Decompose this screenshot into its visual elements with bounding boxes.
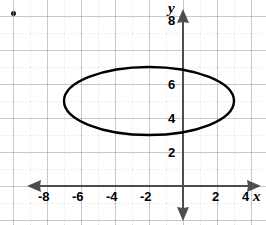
x-tick-label--6: -6: [72, 190, 84, 203]
y-tick-label-4: 4: [168, 112, 175, 125]
x-tick-label--8: -8: [38, 190, 50, 203]
graph-figure: -8 -6 -4 -2 2 4 2 4 6 8 y x: [0, 0, 266, 225]
y-tick-label-2: 2: [168, 146, 175, 159]
x-tick-label-4: 4: [242, 190, 249, 203]
x-tick-label--4: -4: [106, 190, 118, 203]
x-tick-label--2: -2: [140, 190, 152, 203]
y-tick-label-6: 6: [168, 78, 175, 91]
x-tick-label-2: 2: [212, 190, 219, 203]
y-axis-label: y: [168, 1, 175, 16]
x-axis-label: x: [253, 189, 261, 204]
